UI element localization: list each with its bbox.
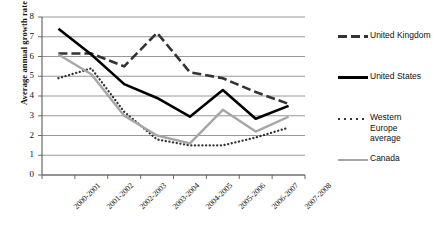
growth-rate-line-chart: Average annual growth rate 012345678 200… [0,0,435,226]
legend-label-western-europe-average: Western Europe average [368,112,430,144]
legend-label-united-states: United States [368,71,421,82]
gridlines [42,17,305,175]
y-axis-tick-marks [38,17,42,175]
series-line [58,33,288,104]
solid-black-line-key-icon [338,73,368,83]
dashed-line-key-icon [338,32,368,42]
data-series-layer [58,29,288,146]
x-axis-tick-marks [42,175,305,179]
dotted-line-key-icon [338,114,368,124]
legend-item-united-states: United States [338,71,421,83]
series-line [58,29,288,119]
legend-item-united-kingdom: United Kingdom [338,30,430,42]
legend-label-united-kingdom: United Kingdom [368,30,430,41]
series-line [58,55,288,144]
legend-item-canada: Canada [338,153,400,165]
legend-item-western-europe-average: Western Europe average [338,112,435,144]
solid-gray-line-key-icon [338,155,368,165]
legend-label-canada: Canada [368,153,400,164]
